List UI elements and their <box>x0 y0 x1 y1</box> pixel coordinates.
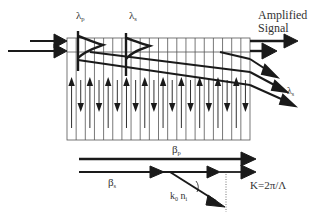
amplified-signal-label: Amplified Signal <box>258 9 307 35</box>
lambda-p-label: λp <box>76 10 85 22</box>
k0-ni-label: k0 ni <box>170 191 187 202</box>
k-arrowhead <box>241 165 256 179</box>
beta-p-subscript: p <box>178 149 181 156</box>
n-subscript: i <box>186 196 188 202</box>
pump-pulse <box>78 31 103 71</box>
lambda-s-label: λs <box>129 10 137 22</box>
amplified-output-arrows <box>250 34 298 59</box>
beta-p-arrowhead <box>241 152 256 166</box>
beta-p-label: βp <box>172 144 181 156</box>
phase-matching-vectors <box>79 152 256 212</box>
lambda-p-subscript: p <box>81 15 84 22</box>
lambda-s-out-subscript: s <box>292 91 294 97</box>
lambda-s-subscript: s <box>134 15 137 22</box>
beta-s-arrowhead <box>207 166 220 178</box>
grating-vector-label: K=2π/Λ <box>250 180 286 191</box>
amplified-label-line2: Signal <box>258 22 307 35</box>
n-symbol: n <box>178 190 186 201</box>
beta-s-label: βs <box>108 177 116 189</box>
beta-s-subscript: s <box>114 182 117 189</box>
input-arrows <box>8 34 67 58</box>
lambda-s-output-label: λs <box>287 86 294 97</box>
diffracted-beams <box>78 52 295 106</box>
k0ni-start-arrowhead <box>150 166 164 178</box>
